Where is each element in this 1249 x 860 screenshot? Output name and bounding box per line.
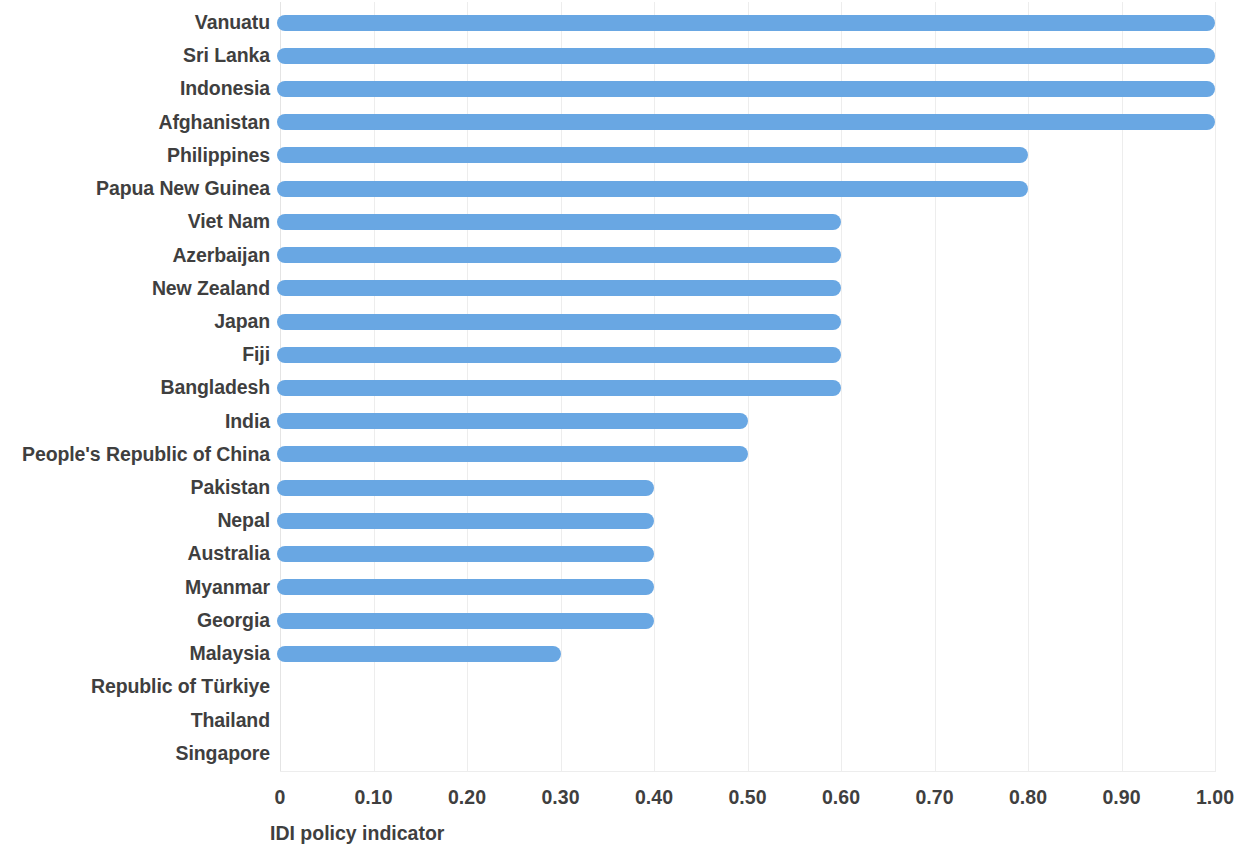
bar[interactable] xyxy=(277,579,654,595)
bar-row: Fiji xyxy=(0,338,1249,371)
bar-row: Philippines xyxy=(0,139,1249,172)
bar-track xyxy=(280,205,1215,238)
bar[interactable] xyxy=(277,446,748,462)
bar-track xyxy=(280,604,1215,637)
bar[interactable] xyxy=(277,347,841,363)
bar-row: Viet Nam xyxy=(0,205,1249,238)
bar-row: Azerbaijan xyxy=(0,239,1249,272)
bar-track xyxy=(280,239,1215,272)
x-tick-label: 0 xyxy=(275,786,286,809)
category-label: Georgia xyxy=(197,604,270,637)
category-label: India xyxy=(225,405,270,438)
bar-track xyxy=(280,405,1215,438)
category-label: New Zealand xyxy=(152,272,270,305)
bar-track xyxy=(280,737,1215,770)
bar-track xyxy=(280,537,1215,570)
bar[interactable] xyxy=(277,380,841,396)
bar-row: Bangladesh xyxy=(0,371,1249,404)
category-label: Azerbaijan xyxy=(172,239,270,272)
bar[interactable] xyxy=(277,280,841,296)
bar[interactable] xyxy=(277,480,654,496)
category-label: People's Republic of China xyxy=(22,438,270,471)
category-label: Republic of Türkiye xyxy=(91,670,270,703)
bar-row: Australia xyxy=(0,537,1249,570)
bar-row: Sri Lanka xyxy=(0,39,1249,72)
category-label: Indonesia xyxy=(180,72,270,105)
bar-track xyxy=(280,338,1215,371)
bar-row: Indonesia xyxy=(0,72,1249,105)
x-tick-label: 0.30 xyxy=(542,786,580,809)
bar-track xyxy=(280,471,1215,504)
category-label: Viet Nam xyxy=(188,205,270,238)
bar[interactable] xyxy=(277,314,841,330)
category-label: Japan xyxy=(214,305,270,338)
bar-track xyxy=(280,438,1215,471)
bar-track xyxy=(280,272,1215,305)
bar-track xyxy=(280,72,1215,105)
bar-track xyxy=(280,670,1215,703)
bar-rows: VanuatuSri LankaIndonesiaAfghanistanPhil… xyxy=(0,0,1249,772)
bar-row: Thailand xyxy=(0,704,1249,737)
bar-track xyxy=(280,504,1215,537)
category-label: Bangladesh xyxy=(160,371,270,404)
bar[interactable] xyxy=(277,181,1028,197)
bar[interactable] xyxy=(277,513,654,529)
x-axis-title: IDI policy indicator xyxy=(270,822,444,845)
bar-track xyxy=(280,139,1215,172)
x-axis: 00.100.200.300.400.500.600.700.800.901.0… xyxy=(0,772,1249,822)
category-label: Afghanistan xyxy=(158,106,270,139)
bar-track xyxy=(280,571,1215,604)
bar[interactable] xyxy=(277,413,748,429)
category-label: Papua New Guinea xyxy=(96,172,270,205)
category-label: Malaysia xyxy=(189,637,270,670)
category-label: Nepal xyxy=(217,504,270,537)
bar-row: Nepal xyxy=(0,504,1249,537)
category-label: Vanuatu xyxy=(195,6,270,39)
bar[interactable] xyxy=(277,147,1028,163)
bar[interactable] xyxy=(277,48,1215,64)
x-tick-label: 0.60 xyxy=(822,786,860,809)
category-label: Myanmar xyxy=(185,571,270,604)
x-tick-label: 0.80 xyxy=(1009,786,1047,809)
bar-track xyxy=(280,6,1215,39)
category-label: Singapore xyxy=(176,737,270,770)
bar-row: Papua New Guinea xyxy=(0,172,1249,205)
bar[interactable] xyxy=(277,613,654,629)
bar-row: Japan xyxy=(0,305,1249,338)
bar-row: Singapore xyxy=(0,737,1249,770)
bar[interactable] xyxy=(277,214,841,230)
bar[interactable] xyxy=(277,546,654,562)
bar-row: Malaysia xyxy=(0,637,1249,670)
bar-track xyxy=(280,39,1215,72)
x-tick-label: 0.20 xyxy=(448,786,486,809)
category-label: Sri Lanka xyxy=(183,39,270,72)
bar[interactable] xyxy=(277,15,1215,31)
bar-row: Myanmar xyxy=(0,571,1249,604)
bar-row: India xyxy=(0,405,1249,438)
bar-row: Pakistan xyxy=(0,471,1249,504)
bar-track xyxy=(280,704,1215,737)
category-label: Thailand xyxy=(191,704,270,737)
bar-track xyxy=(280,637,1215,670)
x-tick-label: 0.90 xyxy=(1103,786,1141,809)
bar-row: Republic of Türkiye xyxy=(0,670,1249,703)
bar-row: Vanuatu xyxy=(0,6,1249,39)
bar-track xyxy=(280,106,1215,139)
bar-row: New Zealand xyxy=(0,272,1249,305)
bar-row: People's Republic of China xyxy=(0,438,1249,471)
category-label: Australia xyxy=(187,537,270,570)
x-tick-label: 1.00 xyxy=(1196,786,1234,809)
bar[interactable] xyxy=(277,114,1215,130)
bar[interactable] xyxy=(277,81,1215,97)
bar[interactable] xyxy=(277,646,561,662)
bar-track xyxy=(280,172,1215,205)
category-label: Pakistan xyxy=(191,471,270,504)
category-label: Fiji xyxy=(242,338,270,371)
idi-policy-indicator-bar-chart: VanuatuSri LankaIndonesiaAfghanistanPhil… xyxy=(0,0,1249,860)
x-tick-label: 0.50 xyxy=(729,786,767,809)
bar-row: Afghanistan xyxy=(0,106,1249,139)
bar[interactable] xyxy=(277,247,841,263)
bar-track xyxy=(280,371,1215,404)
bar-row: Georgia xyxy=(0,604,1249,637)
category-label: Philippines xyxy=(167,139,270,172)
